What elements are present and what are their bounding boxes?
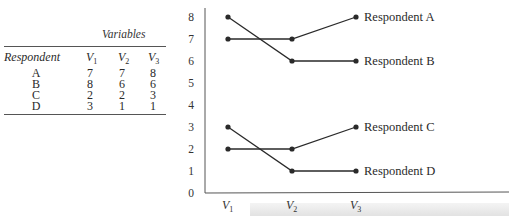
series-label: Respondent C bbox=[364, 120, 434, 134]
data-point bbox=[353, 58, 358, 63]
y-tick-labels: 012345678 bbox=[188, 11, 194, 199]
data-point bbox=[289, 168, 294, 173]
data-point bbox=[225, 14, 230, 19]
x-tick-label: V3 bbox=[350, 198, 361, 214]
data-point bbox=[353, 124, 358, 129]
x-tick-label: V2 bbox=[286, 198, 297, 214]
series-label: Respondent B bbox=[364, 54, 434, 68]
y-tick-label: 7 bbox=[188, 33, 194, 45]
data-point bbox=[353, 14, 358, 19]
y-tick-label: 4 bbox=[188, 99, 194, 111]
x-axis bbox=[205, 192, 509, 193]
data-point bbox=[225, 36, 230, 41]
series-line bbox=[228, 127, 356, 149]
axes bbox=[205, 8, 509, 193]
y-tick-label: 0 bbox=[188, 187, 194, 199]
series-label: Respondent A bbox=[364, 10, 434, 24]
x-tick-labels: V1V2V3 bbox=[222, 198, 361, 214]
y-tick-label: 1 bbox=[188, 165, 194, 177]
series-lines: Respondent ARespondent BRespondent CResp… bbox=[225, 10, 435, 178]
line-chart: 012345678 V1V2V3 Respondent ARespondent … bbox=[0, 0, 509, 216]
y-tick-label: 2 bbox=[188, 143, 194, 155]
data-point bbox=[289, 146, 294, 151]
series-line bbox=[228, 17, 356, 39]
data-point bbox=[289, 58, 294, 63]
data-point bbox=[353, 168, 358, 173]
y-tick-label: 8 bbox=[188, 11, 194, 23]
data-point bbox=[225, 124, 230, 129]
y-tick-label: 5 bbox=[188, 77, 194, 89]
x-tick-label: V1 bbox=[222, 198, 233, 214]
y-tick-label: 3 bbox=[188, 121, 194, 133]
data-point bbox=[225, 146, 230, 151]
y-tick-label: 6 bbox=[188, 55, 194, 67]
series-label: Respondent D bbox=[364, 164, 435, 178]
data-point bbox=[289, 36, 294, 41]
